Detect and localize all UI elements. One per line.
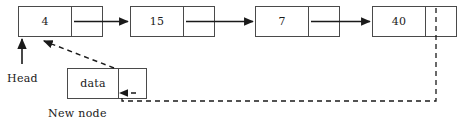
new-node-caption: New node [48,107,107,120]
tail-to-new-node-dashed-arrow [122,8,436,101]
linked-list-diagram: 4 15 7 40 data [0,0,464,126]
new-node-next-dashed-arrow [44,41,114,68]
head-label: Head [7,72,38,85]
